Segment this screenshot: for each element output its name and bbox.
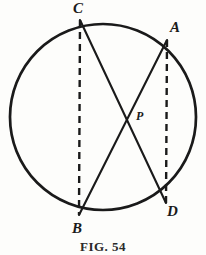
chord-cb-dashed bbox=[79, 20, 80, 215]
vertex-label-a: A bbox=[170, 20, 180, 35]
chord-ad-dashed bbox=[166, 40, 167, 203]
chord-ab bbox=[79, 40, 167, 215]
geometry-figure: C A P B D FIG. 54 bbox=[0, 0, 206, 255]
vertex-label-b: B bbox=[72, 221, 82, 236]
vertex-label-d: D bbox=[167, 204, 178, 219]
figure-caption: FIG. 54 bbox=[0, 239, 206, 255]
vertex-label-p: P bbox=[136, 110, 143, 122]
vertex-label-c: C bbox=[73, 1, 83, 16]
dashed-chords-group bbox=[79, 20, 167, 215]
chord-cd bbox=[80, 20, 166, 203]
main-circle bbox=[10, 24, 196, 210]
circle-group bbox=[10, 24, 196, 210]
solid-chords-group bbox=[79, 20, 167, 215]
